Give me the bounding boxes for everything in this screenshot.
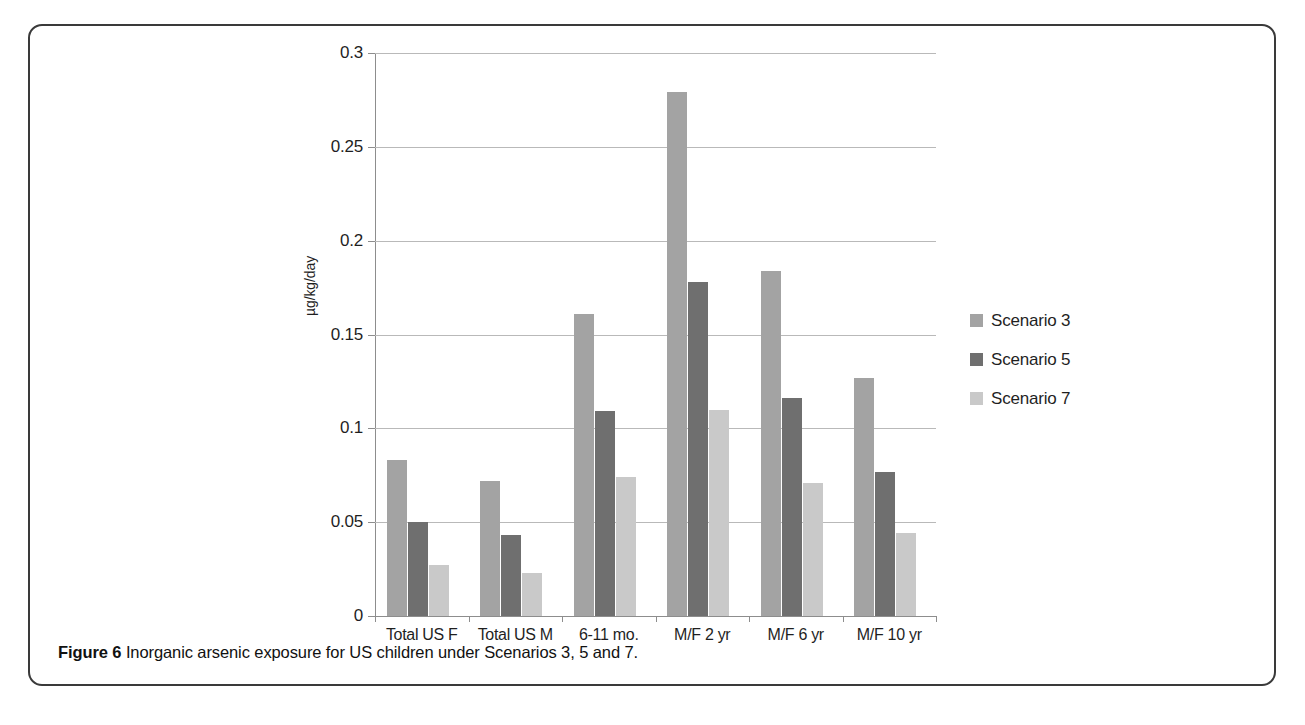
y-axis-tick bbox=[368, 241, 375, 242]
legend-item: Scenario 3 bbox=[970, 301, 1170, 340]
x-axis-tick bbox=[562, 616, 563, 622]
bar-chart: µg/kg/day 00.050.10.150.20.250.3 Scenari… bbox=[30, 26, 1278, 634]
y-axis-tick bbox=[368, 522, 375, 523]
y-axis-tick-label: 0.3 bbox=[340, 43, 363, 63]
legend-item: Scenario 7 bbox=[970, 379, 1170, 418]
legend-label: Scenario 3 bbox=[991, 311, 1070, 331]
figure-caption: Figure 6 Inorganic arsenic exposure for … bbox=[58, 643, 1248, 662]
y-axis-tick-label: 0.25 bbox=[331, 137, 363, 157]
x-axis-tick bbox=[469, 616, 470, 622]
figure-caption-label: Figure 6 bbox=[58, 643, 121, 661]
figure-panel: µg/kg/day 00.050.10.150.20.250.3 Scenari… bbox=[28, 24, 1276, 686]
y-axis-tick bbox=[368, 147, 375, 148]
legend-label: Scenario 7 bbox=[991, 389, 1070, 409]
y-axis-tick-label: 0.05 bbox=[331, 512, 363, 532]
chart-legend: Scenario 3Scenario 5Scenario 7 bbox=[970, 301, 1170, 418]
bar bbox=[709, 410, 729, 616]
bar bbox=[761, 271, 781, 616]
gridline bbox=[375, 53, 936, 54]
y-axis-tick bbox=[368, 428, 375, 429]
x-axis-tick-label: Total US F bbox=[375, 626, 469, 644]
bar bbox=[875, 472, 895, 617]
x-axis-tick bbox=[749, 616, 750, 622]
legend-label: Scenario 5 bbox=[991, 350, 1070, 370]
bar bbox=[480, 481, 500, 616]
bar bbox=[616, 477, 636, 616]
bar bbox=[429, 565, 449, 616]
bar bbox=[574, 314, 594, 616]
plot-area bbox=[375, 53, 936, 616]
x-axis-tick bbox=[375, 616, 376, 622]
bar-group bbox=[574, 53, 636, 616]
x-axis-tick-label: M/F 10 yr bbox=[843, 626, 937, 644]
x-axis-tick bbox=[656, 616, 657, 622]
bar bbox=[387, 460, 407, 616]
legend-swatch-icon bbox=[970, 392, 983, 405]
bar-group bbox=[854, 53, 916, 616]
bar bbox=[501, 535, 521, 616]
gridline bbox=[375, 147, 936, 148]
y-axis-tick bbox=[368, 335, 375, 336]
y-axis-tick-label: 0.1 bbox=[340, 418, 363, 438]
bar bbox=[782, 398, 802, 616]
bar bbox=[803, 483, 823, 616]
x-axis-tick-label: 6-11 mo. bbox=[562, 626, 656, 644]
figure-caption-text: Inorganic arsenic exposure for US childr… bbox=[126, 643, 638, 661]
bar bbox=[667, 92, 687, 616]
bar bbox=[688, 282, 708, 616]
bar-group bbox=[667, 53, 729, 616]
bar bbox=[522, 573, 542, 616]
x-axis-tick-label: Total US M bbox=[469, 626, 563, 644]
gridline bbox=[375, 241, 936, 242]
y-axis-tick-label: 0.2 bbox=[340, 231, 363, 251]
y-axis-tick bbox=[368, 616, 375, 617]
x-axis-tick bbox=[936, 616, 937, 622]
legend-item: Scenario 5 bbox=[970, 340, 1170, 379]
bar-group bbox=[480, 53, 542, 616]
y-axis-tick-label: 0 bbox=[354, 606, 363, 626]
legend-swatch-icon bbox=[970, 314, 983, 327]
gridline bbox=[375, 428, 936, 429]
x-axis-tick-label: M/F 2 yr bbox=[656, 626, 750, 644]
x-axis-tick-label: M/F 6 yr bbox=[749, 626, 843, 644]
bar-group bbox=[761, 53, 823, 616]
bar bbox=[595, 411, 615, 616]
gridline bbox=[375, 335, 936, 336]
legend-swatch-icon bbox=[970, 353, 983, 366]
y-axis-tick bbox=[368, 53, 375, 54]
y-axis-tick-label: 0.15 bbox=[331, 325, 363, 345]
gridline bbox=[375, 522, 936, 523]
x-axis-tick bbox=[843, 616, 844, 622]
bar bbox=[896, 533, 916, 616]
y-axis-tick-labels: 00.050.10.150.20.250.3 bbox=[299, 53, 363, 616]
bar bbox=[408, 522, 428, 616]
bar bbox=[854, 378, 874, 616]
bar-group bbox=[387, 53, 449, 616]
